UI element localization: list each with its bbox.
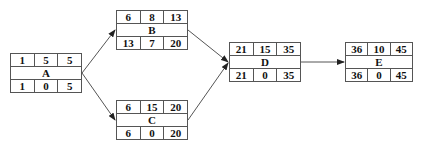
node-c-bottom-row: 6 0 20 — [117, 126, 187, 139]
node-e-name-row: E — [346, 55, 412, 68]
node-c-early-start: 6 — [117, 101, 140, 113]
node-d-duration: 15 — [253, 43, 277, 55]
node-a-late-finish: 5 — [57, 80, 81, 92]
edge-c-d — [188, 63, 228, 120]
node-b-early-start: 6 — [117, 11, 140, 23]
node-d-late-finish: 35 — [276, 69, 300, 81]
node-d: 21 15 35 D 21 0 35 — [229, 42, 301, 82]
node-c-label: C — [117, 114, 187, 126]
node-c-duration: 15 — [140, 101, 164, 113]
node-a-label: A — [11, 67, 81, 79]
edge-a-b — [82, 30, 115, 73]
node-c-late-start: 6 — [117, 127, 140, 139]
node-d-early-finish: 35 — [276, 43, 300, 55]
node-a-late-start: 1 — [11, 80, 34, 92]
node-b-early-finish: 13 — [163, 11, 187, 23]
node-c: 6 15 20 C 6 0 20 — [116, 100, 188, 140]
node-d-late-start: 21 — [230, 69, 253, 81]
node-b-label: B — [117, 24, 187, 36]
node-d-top-row: 21 15 35 — [230, 43, 300, 55]
node-b: 6 8 13 B 13 7 20 — [116, 10, 188, 50]
node-e-duration: 10 — [367, 43, 389, 55]
node-b-slack: 7 — [140, 37, 164, 49]
node-c-name-row: C — [117, 113, 187, 126]
node-a-slack: 0 — [34, 80, 58, 92]
node-e: 36 10 45 E 36 0 45 — [345, 42, 413, 82]
node-c-slack: 0 — [140, 127, 164, 139]
node-a-duration: 5 — [34, 54, 58, 66]
node-c-top-row: 6 15 20 — [117, 101, 187, 113]
node-e-bottom-row: 36 0 45 — [346, 68, 412, 81]
node-e-slack: 0 — [367, 69, 389, 81]
node-d-name-row: D — [230, 55, 300, 68]
node-b-name-row: B — [117, 23, 187, 36]
node-e-early-start: 36 — [346, 43, 367, 55]
node-b-late-start: 13 — [117, 37, 140, 49]
edge-b-d — [188, 30, 228, 62]
node-b-duration: 8 — [140, 11, 164, 23]
node-b-top-row: 6 8 13 — [117, 11, 187, 23]
node-a-bottom-row: 1 0 5 — [11, 79, 81, 92]
node-a-name-row: A — [11, 66, 81, 79]
node-d-slack: 0 — [253, 69, 277, 81]
node-a-top-row: 1 5 5 — [11, 54, 81, 66]
node-a: 1 5 5 A 1 0 5 — [10, 53, 82, 93]
node-a-early-start: 1 — [11, 54, 34, 66]
edge-a-c — [82, 73, 115, 120]
node-b-bottom-row: 13 7 20 — [117, 36, 187, 49]
node-c-early-finish: 20 — [163, 101, 187, 113]
node-a-early-finish: 5 — [57, 54, 81, 66]
node-e-top-row: 36 10 45 — [346, 43, 412, 55]
node-e-late-start: 36 — [346, 69, 367, 81]
node-c-late-finish: 20 — [163, 127, 187, 139]
node-e-early-finish: 45 — [390, 43, 412, 55]
node-e-late-finish: 45 — [390, 69, 412, 81]
node-e-label: E — [346, 56, 412, 68]
node-d-label: D — [230, 56, 300, 68]
node-b-late-finish: 20 — [163, 37, 187, 49]
node-d-bottom-row: 21 0 35 — [230, 68, 300, 81]
node-d-early-start: 21 — [230, 43, 253, 55]
